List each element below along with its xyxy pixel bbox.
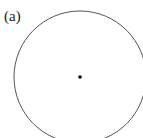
circle-outline: [14, 11, 143, 138]
circle-diagram: [0, 0, 143, 138]
center-point: [78, 75, 82, 79]
